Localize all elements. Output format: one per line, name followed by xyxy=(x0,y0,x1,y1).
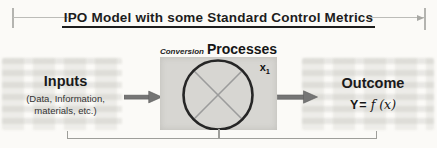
right-dimension-tick xyxy=(424,8,426,30)
variable-subscript: 1 xyxy=(266,67,270,76)
right-arrowhead-icon xyxy=(417,15,424,21)
process-to-outcome-arrow-icon xyxy=(277,90,318,104)
diagram-title-row: IPO Model with some Standard Control Met… xyxy=(0,8,437,28)
inputs-description-line2: materials, etc.) xyxy=(8,105,123,117)
inputs-heading: Inputs xyxy=(8,73,123,89)
processes-label: Processes xyxy=(207,41,277,57)
process-box: x1 xyxy=(160,57,277,130)
inputs-block: Inputs (Data, Information, materials, et… xyxy=(8,73,123,116)
bottom-dimension-bracket xyxy=(67,131,377,139)
outcome-heading: Outcome xyxy=(316,75,430,91)
bracket-center-tick xyxy=(218,129,220,138)
formula-equals: = xyxy=(359,98,366,112)
inputs-description: (Data, Information, materials, etc.) xyxy=(8,93,123,116)
formula-y: Y xyxy=(350,98,358,112)
outcome-formula: Y=f (x) xyxy=(316,97,430,112)
inputs-description-line1: (Data, Information, xyxy=(8,93,123,105)
input-to-process-arrow-icon xyxy=(124,90,162,104)
ipo-model-diagram: IPO Model with some Standard Control Met… xyxy=(0,0,437,148)
formula-fx: f (x) xyxy=(371,97,396,112)
process-label: ConversionProcesses xyxy=(0,40,437,58)
process-variable-label: x1 xyxy=(260,61,270,76)
diagram-title: IPO Model with some Standard Control Met… xyxy=(62,10,376,28)
conversion-label: Conversion xyxy=(160,47,204,56)
outcome-block: Outcome Y=f (x) xyxy=(316,75,430,112)
